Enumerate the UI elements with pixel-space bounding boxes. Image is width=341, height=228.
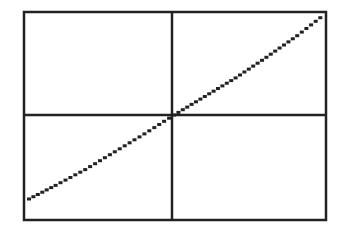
plot-curve: [27, 16, 322, 200]
calculator-graph: [0, 0, 341, 228]
